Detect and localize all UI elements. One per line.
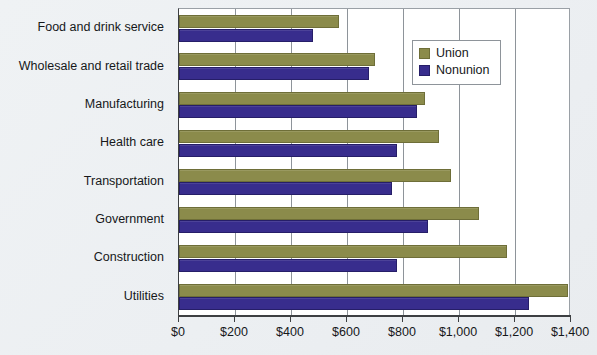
x-axis-label: $800 [388, 326, 416, 339]
category-axis-labels: Food and drink serviceWholesale and reta… [0, 8, 172, 315]
bar-nonunion [179, 259, 397, 272]
category-label: Utilities [0, 290, 164, 303]
plot-inner [179, 9, 569, 315]
bar-union [179, 207, 479, 220]
bar-nonunion [179, 29, 313, 42]
category-label: Government [0, 213, 164, 226]
x-axis-tick [458, 315, 459, 322]
x-axis-tick [346, 315, 347, 322]
category-label: Construction [0, 251, 164, 264]
bar-nonunion [179, 182, 392, 195]
legend-label-union: Union [436, 47, 469, 60]
bar-union [179, 169, 451, 182]
bar-union [179, 92, 425, 105]
x-axis-label: $0 [171, 326, 185, 339]
category-label: Food and drink service [0, 21, 164, 34]
plot-area [178, 8, 570, 315]
x-axis-label: $400 [276, 326, 304, 339]
legend-swatch-nonunion-icon [419, 65, 430, 76]
legend-item-nonunion: Nonunion [419, 62, 490, 79]
bar-nonunion [179, 220, 428, 233]
bar-nonunion [179, 297, 529, 310]
x-axis-label: $600 [332, 326, 360, 339]
category-label: Wholesale and retail trade [0, 60, 164, 73]
bar-group [179, 239, 569, 277]
bar-union [179, 284, 568, 297]
bar-union [179, 130, 439, 143]
legend: Union Nonunion [412, 40, 501, 85]
bar-nonunion [179, 105, 417, 118]
x-axis-tick [570, 315, 571, 322]
value-axis-labels: $0$200$400$600$800$1,000$1,200$1,400 [0, 326, 597, 346]
bar-union [179, 53, 375, 66]
bar-nonunion [179, 144, 397, 157]
legend-swatch-union-icon [419, 48, 430, 59]
x-axis-label: $1,400 [551, 326, 589, 339]
x-axis-tick [514, 315, 515, 322]
x-axis-tick [178, 315, 179, 322]
x-axis-tick [290, 315, 291, 322]
bar-group [179, 124, 569, 162]
legend-item-union: Union [419, 45, 490, 62]
legend-label-nonunion: Nonunion [436, 64, 490, 77]
bar-group [179, 47, 569, 85]
bar-nonunion [179, 67, 369, 80]
x-axis-tick [234, 315, 235, 322]
bar-group [179, 86, 569, 124]
category-label: Health care [0, 136, 164, 149]
x-axis-label: $200 [220, 326, 248, 339]
bar-union [179, 245, 507, 258]
bar-group [179, 163, 569, 201]
category-label: Manufacturing [0, 98, 164, 111]
bar-union [179, 15, 339, 28]
bar-group [179, 9, 569, 47]
category-label: Transportation [0, 175, 164, 188]
bar-group [179, 201, 569, 239]
bar-chart: Food and drink serviceWholesale and reta… [0, 0, 597, 355]
x-axis-label: $1,200 [495, 326, 533, 339]
x-axis-label: $1,000 [439, 326, 477, 339]
x-axis-tick [402, 315, 403, 322]
bar-group [179, 278, 569, 315]
x-axis-line [178, 315, 570, 317]
